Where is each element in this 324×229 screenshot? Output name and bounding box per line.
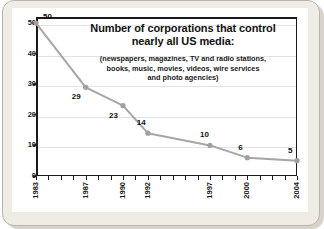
x-axis-tick bbox=[210, 176, 211, 180]
x-axis-tick-label: 2004 bbox=[293, 182, 301, 199]
x-axis-tick-label: 1997 bbox=[206, 182, 214, 199]
data-point-marker bbox=[145, 131, 150, 136]
x-axis-tick bbox=[272, 176, 273, 180]
x-axis-tick bbox=[222, 176, 223, 180]
data-point-marker bbox=[83, 85, 88, 90]
data-point-label: 14 bbox=[137, 119, 146, 127]
x-axis-tick bbox=[73, 176, 74, 180]
x-axis-tick-label: 1992 bbox=[144, 182, 152, 199]
x-axis-tick bbox=[198, 176, 199, 180]
x-axis-tick bbox=[98, 176, 99, 180]
data-point-marker bbox=[33, 21, 38, 26]
data-point-label: 5 bbox=[288, 147, 292, 155]
x-axis-tick bbox=[185, 176, 186, 180]
title-line-1: Number of corporations that control bbox=[78, 22, 288, 35]
subtitle-line-2: books, music, movies, videos, wire servi… bbox=[78, 64, 288, 74]
x-axis-tick bbox=[297, 176, 298, 180]
subtitle-line-3: and photo agencies) bbox=[78, 73, 288, 83]
x-axis-tick bbox=[135, 176, 136, 180]
x-axis-tick bbox=[235, 176, 236, 180]
data-point-label: 29 bbox=[72, 93, 81, 101]
x-axis-tick bbox=[260, 176, 261, 180]
x-axis-tick-label: 1983 bbox=[32, 182, 40, 199]
x-axis-tick bbox=[111, 176, 112, 180]
chart-subtitle: (newspapers, magazines, TV and radio sta… bbox=[78, 54, 288, 83]
x-axis-tick bbox=[61, 176, 62, 180]
data-point-label: 10 bbox=[200, 131, 209, 139]
x-axis-tick bbox=[36, 176, 37, 180]
x-axis-tick bbox=[148, 176, 149, 180]
title-line-2: nearly all US media: bbox=[78, 35, 288, 48]
data-point-marker bbox=[294, 158, 299, 163]
x-axis-tick-label: 2000 bbox=[243, 182, 251, 199]
data-point-marker bbox=[207, 143, 212, 148]
x-axis-tick bbox=[123, 176, 124, 180]
chart-title-block: Number of corporations that control near… bbox=[78, 22, 288, 83]
data-point-label: 50 bbox=[43, 13, 52, 21]
x-axis-tick bbox=[285, 176, 286, 180]
x-axis-tick bbox=[86, 176, 87, 180]
x-axis-tick-label: 1990 bbox=[119, 182, 127, 199]
data-point-label: 6 bbox=[238, 144, 242, 152]
data-point-marker bbox=[245, 155, 250, 160]
data-point-marker bbox=[120, 103, 125, 108]
x-axis-tick bbox=[247, 176, 248, 180]
x-axis: 1983198719901992199720002004 bbox=[36, 176, 297, 212]
chart-screenshot: 01020304050 1983198719901992199720002004… bbox=[0, 0, 324, 229]
x-axis-tick bbox=[48, 176, 49, 180]
x-axis-tick bbox=[173, 176, 174, 180]
y-axis: 01020304050 bbox=[8, 17, 36, 176]
subtitle-line-1: (newspapers, magazines, TV and radio sta… bbox=[78, 54, 288, 64]
data-point-label: 23 bbox=[109, 112, 118, 120]
page-title: Number of corporations that control near… bbox=[78, 22, 288, 49]
x-axis-tick-label: 1987 bbox=[82, 182, 90, 199]
x-axis-tick bbox=[160, 176, 161, 180]
